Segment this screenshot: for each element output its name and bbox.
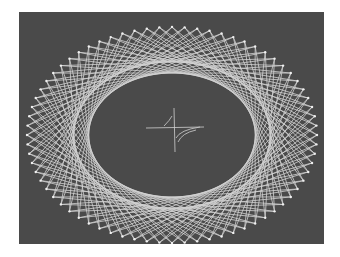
- string-art-ellipse: [0, 0, 340, 257]
- center-cross-mark: [146, 108, 204, 152]
